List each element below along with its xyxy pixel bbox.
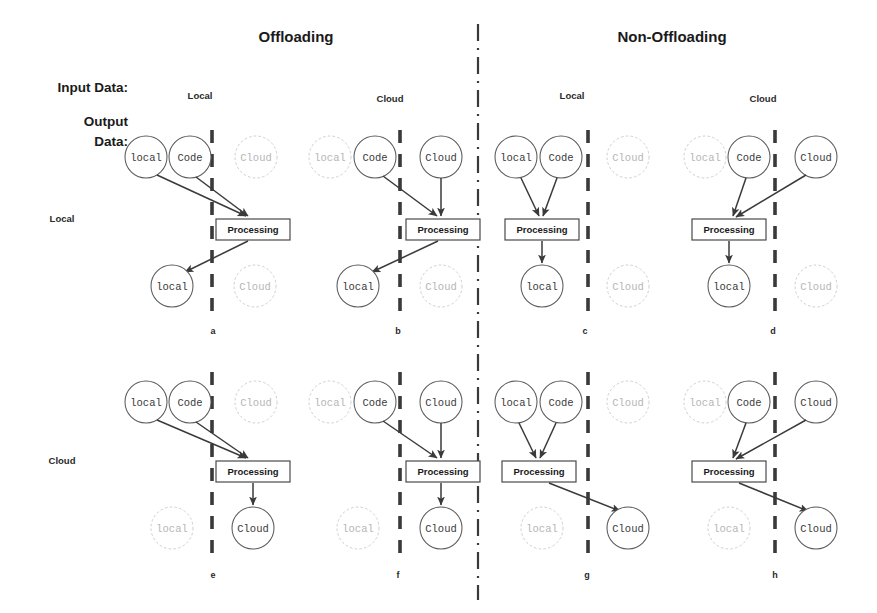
panel-g-input-cloud-label: Cloud xyxy=(612,397,644,409)
panel-g-input-local-label: local xyxy=(500,397,532,409)
panel-f-input-cloud-label: Cloud xyxy=(425,397,457,409)
panel-h-input-local-label: local xyxy=(689,397,721,409)
panel-a-input-local-label: local xyxy=(130,152,162,164)
column-header-2: Local xyxy=(560,90,585,101)
panel-e-processing-label: Processing xyxy=(227,466,278,477)
panel-c-processing-label: Processing xyxy=(516,224,567,235)
panel-h-flow-cloud-to-processing xyxy=(736,420,806,459)
panel-c-input-local-label: local xyxy=(500,152,532,164)
panel-c-flow-code-to-processing xyxy=(543,178,557,216)
panel-a: local Code Cloud Processing local Cloud … xyxy=(125,130,290,336)
offloading-taxonomy-diagram: Offloading Non-Offloading Input Data: Ou… xyxy=(0,0,877,613)
panel-g-processing-label: Processing xyxy=(513,466,564,477)
panel-g-output-cloud-label: Cloud xyxy=(612,523,644,535)
panel-c: local Code Cloud Processing local Cloud … xyxy=(495,130,649,336)
panel-h-flow-processing-to-cloud xyxy=(739,483,808,511)
panel-g-flow-processing-to-cloud xyxy=(549,483,620,511)
panel-f-flow-code-to-processing xyxy=(383,421,437,458)
panel-a-output-local-label: local xyxy=(156,281,188,293)
panel-c-output-local-label: local xyxy=(526,281,558,293)
panel-letter-e: e xyxy=(210,570,215,580)
panel-h-output-cloud-label: Cloud xyxy=(800,523,832,535)
panel-letter-a: a xyxy=(210,326,216,336)
panel-f-output-cloud-label: Cloud xyxy=(425,523,457,535)
panel-c-output-cloud-label: Cloud xyxy=(612,281,644,293)
panel-e-output-cloud-label: Cloud xyxy=(237,523,269,535)
output-data-label-line1: Output xyxy=(84,114,129,129)
panel-b: local Code Cloud Processing local Cloud … xyxy=(309,130,480,336)
panel-d-output-cloud-label: Cloud xyxy=(800,281,832,293)
panel-e-input-local-label: local xyxy=(130,397,162,409)
panel-h-flow-code-to-processing xyxy=(733,423,746,458)
input-data-label: Input Data: xyxy=(58,80,129,95)
panel-d-processing-label: Processing xyxy=(703,224,754,235)
panel-g-input-code-label: Code xyxy=(548,397,573,409)
panel-letter-d: d xyxy=(770,326,776,336)
group-title-non-offloading: Non-Offloading xyxy=(617,28,726,45)
column-header-1: Cloud xyxy=(377,93,404,104)
panel-a-processing-label: Processing xyxy=(227,224,278,235)
panel-b-output-cloud-label: Cloud xyxy=(425,281,457,293)
panel-c-input-code-label: Code xyxy=(548,152,573,164)
panel-h-input-code-label: Code xyxy=(736,397,761,409)
panel-a-flow-processing-to-local xyxy=(185,241,248,272)
panel-b-input-cloud-label: Cloud xyxy=(425,152,457,164)
group-title-offloading: Offloading xyxy=(259,28,334,45)
panel-e-output-local-label: local xyxy=(156,523,188,535)
panel-b-flow-code-to-processing xyxy=(383,176,437,216)
panel-d-input-local-label: local xyxy=(689,152,721,164)
panel-d-input-code-label: Code xyxy=(736,152,761,164)
panel-b-input-local-label: local xyxy=(314,152,346,164)
panel-f-processing-label: Processing xyxy=(417,466,468,477)
panel-h-input-cloud-label: Cloud xyxy=(800,397,832,409)
panel-d-input-cloud-label: Cloud xyxy=(800,152,832,164)
panel-b-processing-label: Processing xyxy=(417,224,468,235)
panel-d-output-local-label: local xyxy=(713,281,745,293)
panel-e-input-cloud-label: Cloud xyxy=(240,397,272,409)
panel-h-processing-label: Processing xyxy=(703,466,754,477)
panel-a-input-cloud-label: Cloud xyxy=(240,152,272,164)
row-label-local: Local xyxy=(50,213,75,224)
panel-e: local Code Cloud Processing local Cloud … xyxy=(125,372,290,580)
panel-a-input-code-label: Code xyxy=(177,152,202,164)
panel-f-output-local-label: local xyxy=(342,523,374,535)
column-header-3: Cloud xyxy=(750,93,777,104)
panel-letter-c: c xyxy=(582,326,587,336)
panel-h-output-local-label: local xyxy=(713,523,745,535)
panel-c-flow-local-to-processing xyxy=(521,178,539,216)
panel-f-input-code-label: Code xyxy=(362,397,387,409)
panel-letter-g: g xyxy=(584,570,590,580)
panel-letter-f: f xyxy=(397,570,401,580)
panel-d: local Code Cloud Processing local Cloud … xyxy=(684,130,837,336)
panel-f: local Code Cloud Processing local Cloud … xyxy=(309,372,480,580)
panel-b-input-code-label: Code xyxy=(362,152,387,164)
panel-e-input-code-label: Code xyxy=(177,397,202,409)
panel-d-flow-code-to-processing xyxy=(733,178,746,216)
panel-g: local Code Cloud Processing local Cloud … xyxy=(495,372,649,580)
figure-canvas: Offloading Non-Offloading Input Data: Ou… xyxy=(0,0,877,613)
panel-g-output-local-label: local xyxy=(526,523,558,535)
panel-letter-h: h xyxy=(772,570,778,580)
panel-b-output-local-label: local xyxy=(342,281,374,293)
output-data-label-line2: Data: xyxy=(94,134,128,149)
panel-d-flow-cloud-to-processing xyxy=(736,175,806,217)
panel-g-flow-code-to-processing xyxy=(540,423,556,458)
panel-a-output-cloud-label: Cloud xyxy=(239,281,271,293)
panel-b-flow-processing-to-local xyxy=(372,241,438,272)
panel-letter-b: b xyxy=(395,326,401,336)
panel-g-flow-local-to-processing xyxy=(519,423,536,458)
panel-h: local Code Cloud Processing local Cloud … xyxy=(684,372,837,580)
panel-f-input-local-label: local xyxy=(314,397,346,409)
column-header-0: Local xyxy=(188,90,213,101)
panel-c-input-cloud-label: Cloud xyxy=(612,152,644,164)
row-label-cloud: Cloud xyxy=(49,455,76,466)
